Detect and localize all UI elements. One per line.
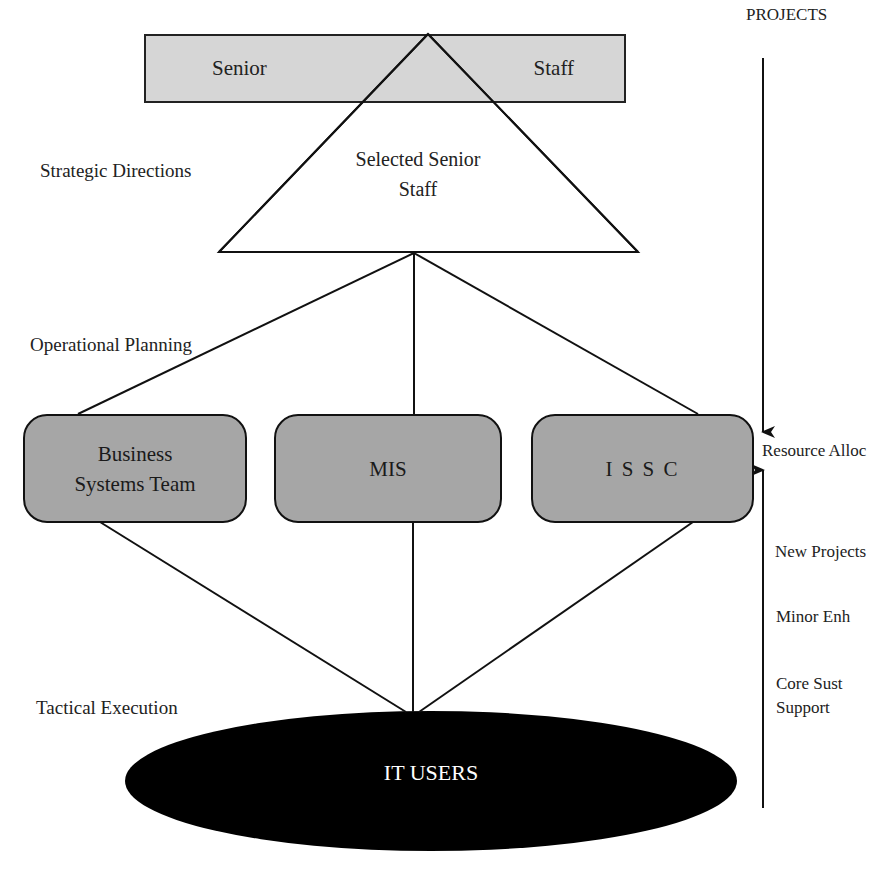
operational-planning-label: Operational Planning	[30, 334, 192, 356]
core-sust-label: Core Sust	[776, 673, 843, 695]
team-label-line2: Systems Team	[74, 469, 195, 499]
minor-enh-label: Minor Enh	[776, 606, 850, 628]
projects-label: PROJECTS	[746, 4, 827, 26]
senior-label: Senior	[212, 56, 267, 80]
issc-box: I S S C	[531, 414, 754, 523]
resource-alloc-label: Resource Alloc	[762, 440, 866, 462]
senior-staff-bar: Senior Staff	[144, 34, 626, 103]
staff-label: Staff	[534, 56, 574, 80]
strategic-directions-label: Strategic Directions	[40, 160, 191, 182]
team-label: MIS	[369, 454, 406, 484]
team-label: I S S C	[605, 454, 679, 484]
team-label-line1: Business	[74, 439, 195, 469]
connector-line	[414, 253, 698, 414]
tactical-execution-label: Tactical Execution	[36, 697, 178, 719]
business-systems-team-box: Business Systems Team	[23, 414, 247, 523]
support-label: Support	[776, 697, 830, 719]
it-users-label: IT USERS	[125, 760, 737, 786]
connector-line	[100, 522, 406, 712]
connector-line	[419, 522, 693, 712]
triangle-label: Selected Senior Staff	[318, 144, 518, 204]
mis-box: MIS	[274, 414, 502, 523]
it-governance-diagram: Senior Staff Selected Senior Staff Strat…	[0, 0, 892, 876]
new-projects-label: New Projects	[775, 541, 866, 563]
triangle-label-line2: Staff	[318, 174, 518, 204]
triangle-label-line1: Selected Senior	[318, 144, 518, 174]
